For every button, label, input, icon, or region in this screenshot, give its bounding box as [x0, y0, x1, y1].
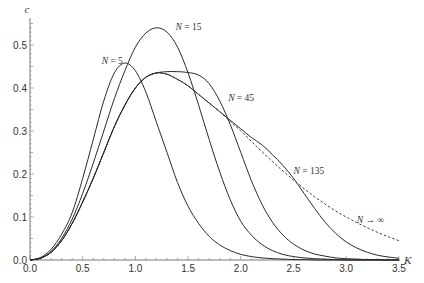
y-tick-label: 0.3 — [13, 126, 27, 137]
x-tick-label: 1.0 — [128, 263, 142, 274]
series-label: N = 45 — [227, 93, 254, 103]
y-tick-label: 0.4 — [13, 83, 27, 94]
y-tick-label: 0.0 — [13, 255, 27, 266]
axes: 0.00.51.01.52.02.53.03.50.00.10.20.30.40… — [13, 3, 412, 274]
curve-n-5 — [30, 63, 399, 260]
series-label: N → ∞ — [356, 215, 385, 225]
curve-n-45 — [30, 72, 399, 261]
y-tick-label: 0.1 — [13, 212, 27, 223]
curves — [30, 28, 399, 260]
x-tick-label: 3.0 — [339, 263, 353, 274]
series-label: N = 135 — [293, 166, 325, 176]
y-axis-label: c — [25, 3, 30, 15]
x-tick-label: 2.5 — [287, 263, 301, 274]
y-tick-label: 0.2 — [13, 169, 27, 180]
curve-n — [30, 73, 399, 260]
x-tick-label: 1.5 — [181, 263, 195, 274]
series-labels: N = 5N = 15N = 45N = 135N → ∞ — [101, 22, 385, 226]
x-tick-label: 2.0 — [234, 263, 248, 274]
curve-n-15 — [30, 28, 399, 260]
line-chart: 0.00.51.01.52.02.53.03.50.00.10.20.30.40… — [0, 0, 424, 283]
curve-n-135 — [30, 73, 399, 260]
series-label: N = 5 — [101, 56, 123, 66]
y-tick-label: 0.5 — [13, 40, 27, 51]
x-tick-label: 0.5 — [76, 263, 90, 274]
series-label: N = 15 — [174, 22, 201, 32]
x-axis-label: K — [403, 254, 412, 266]
